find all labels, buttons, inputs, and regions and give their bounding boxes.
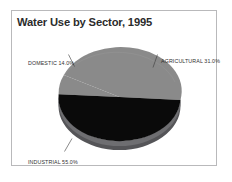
pie-label-industrial: INDUSTRIAL 55.0% <box>28 159 78 165</box>
pie-label-domestic: DOMESTIC 14.0% <box>28 60 74 66</box>
pie-chart: DOMESTIC 14.0% AGRICULTURAL 31.0% INDUST… <box>11 10 217 166</box>
leader-line-industrial <box>65 139 73 152</box>
chart-figure: Water Use by Sector, 1995 <box>0 0 232 182</box>
pie-chart-graphic <box>11 10 217 166</box>
pie-label-agricultural: AGRICULTURAL 31.0% <box>161 58 220 64</box>
